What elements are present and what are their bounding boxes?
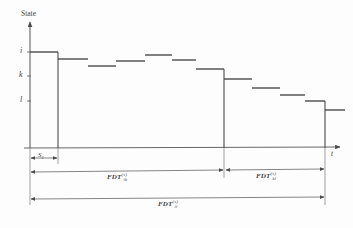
- y-tick-label-k: k: [19, 71, 23, 79]
- axes-group: [24, 22, 340, 148]
- fdt-kl-subscript: kl: [273, 176, 277, 181]
- state-trajectory: [30, 52, 345, 110]
- s1-subscript: 1: [42, 155, 44, 160]
- dimension-label-fdt-ik: FDT(s)ik: [107, 174, 127, 181]
- fdt-il-superscript: (s): [173, 199, 178, 204]
- dimension-label-s1: S1: [38, 152, 44, 159]
- y-tick-label-i: i: [20, 47, 22, 55]
- y-axis-title: State: [21, 10, 36, 18]
- diagram-canvas: [0, 0, 353, 228]
- fdt-il-subscript: il: [175, 204, 178, 209]
- fdt-il-base: FDT: [158, 200, 173, 208]
- fdt-kl-superscript: (s): [271, 171, 276, 176]
- extension-lines-group: [30, 148, 325, 205]
- fdt-kl-base: FDT: [256, 172, 271, 180]
- dimension-bars-group: [31, 158, 324, 199]
- dimension-label-fdt-kl: FDT(s)kl: [256, 173, 276, 180]
- y-tick-label-l: l: [20, 96, 22, 104]
- fdt-ik-subscript: ik: [124, 177, 128, 182]
- fdt-state-time-diagram: State i k l t S1 FDT(s)ik FDT(s)kl FDT(s…: [0, 0, 353, 228]
- dimension-label-fdt-il: FDT(s)il: [158, 201, 178, 208]
- x-axis-title: t: [331, 150, 333, 158]
- x-axis: [24, 147, 340, 148]
- fdt-ik-base: FDT: [107, 173, 122, 181]
- fdt-ik-superscript: (s): [122, 172, 127, 177]
